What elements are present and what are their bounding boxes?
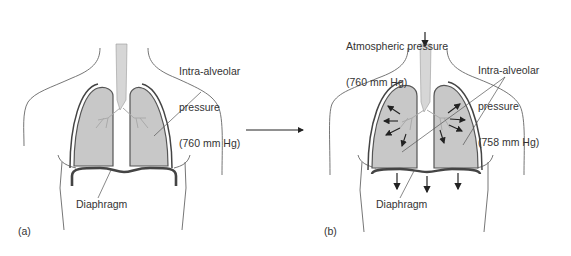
panel-b-diaphragm-label: Diaphragm xyxy=(376,198,427,210)
label-line: Intra-alveolar xyxy=(478,64,539,76)
pressure-value: (760 mm Hg) xyxy=(346,76,448,88)
pressure-value: (760 mm Hg) xyxy=(179,137,240,149)
panel-a-intra-alveolar-label: Intra-alveolar pressure (760 mm Hg) xyxy=(179,41,240,161)
label-line: Atmospheric pressure xyxy=(346,40,448,52)
panel-a-label: (a) xyxy=(18,225,31,237)
panel-a-diaphragm-label: Diaphragm xyxy=(76,198,127,210)
label-line: pressure xyxy=(478,100,539,112)
pressure-value: (758 mm Hg) xyxy=(478,136,539,148)
panel-b-diaphragm xyxy=(372,169,480,174)
label-line: Intra-alveolar xyxy=(179,65,240,77)
panel-a-diaphragm xyxy=(72,168,176,186)
label-line: pressure xyxy=(179,101,240,113)
panel-a-right-lung xyxy=(130,84,172,168)
panel-b-atmospheric-label: Atmospheric pressure (760 mm Hg) xyxy=(346,16,448,100)
panel-a-trachea xyxy=(116,44,127,110)
panel-b-intra-alveolar-label: Intra-alveolar pressure (758 mm Hg) xyxy=(478,40,539,160)
panel-b-label: (b) xyxy=(324,225,337,237)
diaphragm-down-arrows xyxy=(397,173,458,192)
